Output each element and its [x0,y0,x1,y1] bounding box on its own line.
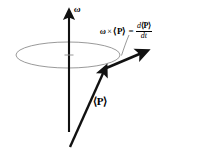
fraction-numerator: d⟨P⟩ [136,22,152,31]
numerator-momentum-symbol: ⟨P⟩ [141,21,151,30]
equation-equals-symbol: = [128,26,133,36]
derivative-vector-arrow [104,53,143,70]
derivative-fraction: d⟨P⟩ dt [136,22,152,40]
equation-omega-symbol: ω [100,27,106,36]
physics-figure: ω ⟨P⟩ ω × ⟨P⟩ = d⟨P⟩ dt [0,0,207,155]
equation-cross-symbol: × [107,27,112,36]
momentum-vector-arrow [70,70,105,147]
momentum-vector-label: ⟨P⟩ [93,96,107,107]
cross-product-equation: ω × ⟨P⟩ = d⟨P⟩ dt [100,22,152,40]
omega-axis-label: ω [74,5,81,14]
equation-momentum-symbol: ⟨P⟩ [113,26,126,36]
fraction-denominator: dt [141,32,147,41]
